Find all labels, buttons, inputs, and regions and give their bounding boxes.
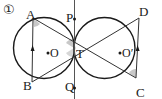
parallel-arrow-ab bbox=[31, 45, 35, 51]
label-a: A bbox=[26, 7, 36, 22]
figure-number-label: ① bbox=[3, 2, 15, 17]
label-c: C bbox=[136, 85, 145, 99]
label-d: D bbox=[139, 4, 148, 19]
label-o-prime: O′ bbox=[122, 46, 134, 60]
geometry-diagram: ① A B C D P Q T O O′ bbox=[0, 0, 162, 99]
label-p: P bbox=[66, 10, 73, 25]
angle-mark-c bbox=[129, 69, 136, 78]
line-ac bbox=[33, 18, 136, 78]
circle-o bbox=[14, 18, 75, 79]
label-o: O bbox=[50, 46, 59, 60]
parallel-arrow-dc bbox=[136, 45, 140, 51]
label-q: Q bbox=[65, 79, 75, 94]
label-b: B bbox=[23, 78, 32, 93]
label-t: T bbox=[76, 46, 84, 61]
point-p-dot bbox=[73, 18, 76, 21]
